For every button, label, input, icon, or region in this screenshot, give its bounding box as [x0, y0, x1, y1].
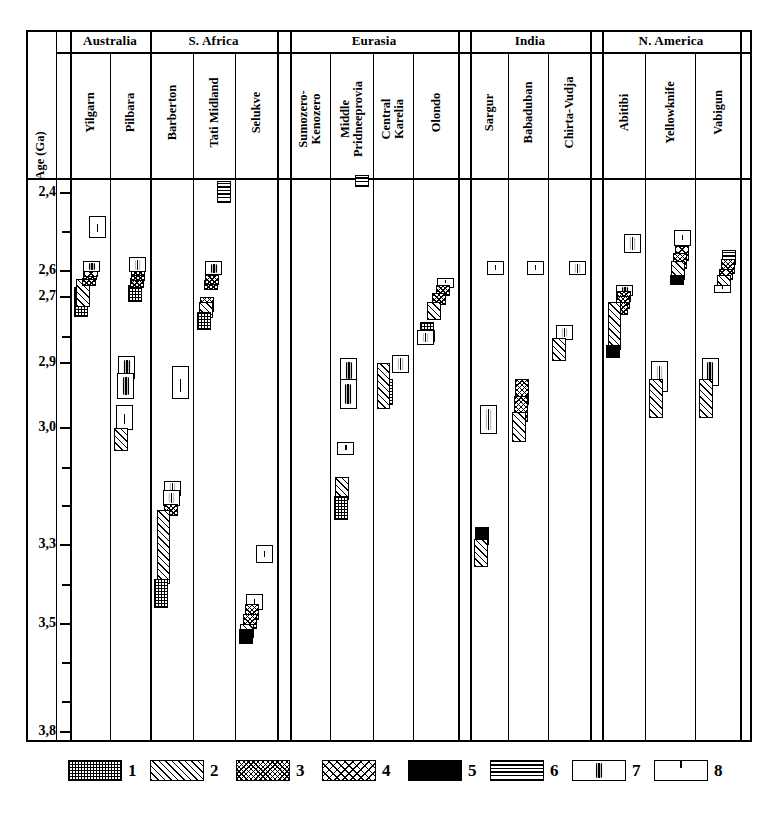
- data-block: [256, 545, 273, 563]
- y-axis-tick-minor: [62, 701, 71, 703]
- y-axis-tick-minor: [62, 662, 71, 664]
- region-header-separator: [56, 52, 752, 54]
- column-divider: [150, 30, 152, 742]
- column-header-babaduban: Babaduban: [522, 53, 535, 173]
- legend-item-5: 5: [408, 760, 488, 784]
- column-header-pilbara: Pilbara: [124, 53, 137, 173]
- y-axis-tick-minor: [62, 231, 71, 233]
- y-axis-tick-major: [60, 296, 71, 298]
- data-block: [480, 405, 497, 434]
- legend-swatch-horizontal-lines: [490, 760, 544, 781]
- y-axis-tick-major: [60, 623, 71, 625]
- legend-label: 6: [550, 761, 559, 781]
- y-axis-tick-minor: [62, 336, 71, 338]
- data-block: [172, 366, 189, 399]
- column-divider: [590, 30, 592, 742]
- data-block: [114, 428, 128, 451]
- legend-label: 1: [128, 761, 137, 781]
- column-header-chirta-vudja: Chirta-Vudja: [563, 53, 576, 173]
- y-axis-tick-label: 2,7: [16, 289, 56, 303]
- column-header-abitibi: Abitibi: [617, 53, 630, 173]
- data-block: [714, 285, 731, 293]
- data-block: [670, 275, 684, 285]
- column-divider: [56, 30, 57, 742]
- column-header-tati-midland: Tati Midland: [208, 53, 221, 173]
- data-block: [116, 405, 133, 430]
- data-block: [569, 261, 586, 275]
- data-block: [157, 510, 170, 585]
- data-block: [474, 539, 488, 567]
- column-header-olondo: Olondo: [429, 53, 442, 173]
- y-axis-tick-label: 2,6: [16, 263, 56, 277]
- column-divider: [277, 30, 279, 742]
- data-block: [699, 379, 713, 418]
- data-block: [129, 257, 146, 272]
- column-divider: [695, 52, 696, 742]
- column-divider: [193, 52, 194, 742]
- data-block: [427, 302, 441, 320]
- y-axis-tick-label: 3,0: [16, 420, 56, 434]
- y-axis-tick-minor: [62, 584, 71, 586]
- column-divider: [235, 52, 236, 742]
- legend-item-7: 7: [572, 760, 652, 784]
- y-axis-tick-label: 2,9: [16, 355, 56, 369]
- data-block: [89, 216, 106, 237]
- legend-swatch-box-small-dash: [654, 760, 708, 781]
- legend-label: 7: [632, 761, 641, 781]
- column-header-yilgarn: Yilgarn: [84, 53, 97, 173]
- data-block: [487, 261, 504, 275]
- y-axis-tick-major: [60, 544, 71, 546]
- column-divider: [413, 52, 414, 742]
- legend-label: 2: [210, 761, 219, 781]
- region-header-n-america: N. America: [602, 33, 740, 48]
- column-divider: [645, 52, 646, 742]
- data-block: [417, 330, 434, 345]
- data-block: [334, 496, 348, 519]
- data-block: [340, 379, 357, 408]
- legend-label: 8: [714, 761, 723, 781]
- legend-swatch-sparse-speckle: [322, 760, 376, 781]
- column-divider: [508, 52, 509, 742]
- data-block: [205, 261, 222, 275]
- y-axis-tick-label: 3,8: [16, 724, 56, 738]
- data-block: [197, 312, 211, 330]
- data-block: [527, 261, 544, 275]
- column-divider: [470, 30, 472, 742]
- y-axis-tick-label: 3,5: [16, 616, 56, 630]
- legend: 12345678: [0, 752, 765, 800]
- data-block: [608, 302, 621, 350]
- legend-item-3: 3: [236, 760, 316, 784]
- region-header-s-africa: S. Africa: [150, 33, 277, 48]
- column-divider: [458, 30, 460, 742]
- y-axis-tick-label: 2,4: [16, 185, 56, 199]
- data-block: [83, 261, 100, 272]
- legend-label: 4: [382, 761, 391, 781]
- data-block: [154, 579, 168, 609]
- y-axis-tick-minor: [62, 467, 71, 469]
- column-header-vabigun: Vabigun: [711, 53, 724, 173]
- data-block: [552, 338, 566, 361]
- data-block: [392, 355, 409, 373]
- age-chart: AustraliaS. AfricaEurasiaIndiaN. America…: [0, 0, 765, 816]
- column-divider: [290, 30, 292, 742]
- column-divider: [330, 52, 331, 742]
- legend-swatch-checker-grid: [68, 760, 122, 781]
- column-divider: [548, 52, 549, 742]
- column-header-central-karelia: Central Karelia: [380, 59, 406, 179]
- data-block: [377, 363, 390, 409]
- y-axis-tick-minor: [62, 505, 71, 507]
- column-header-yellowknife: Yellowknife: [664, 53, 677, 173]
- column-header-sumozero-kenozero: Sumozero- Kenozero: [297, 59, 323, 179]
- legend-label: 5: [468, 761, 477, 781]
- column-divider: [373, 52, 374, 742]
- legend-item-2: 2: [150, 760, 230, 784]
- column-divider: [70, 30, 72, 742]
- column-header-sargur: Sargur: [483, 53, 496, 173]
- column-header-selukve: Selukve: [250, 53, 263, 173]
- legend-item-6: 6: [490, 760, 570, 784]
- data-block: [624, 234, 641, 254]
- column-header-barberton: Barberton: [165, 53, 178, 173]
- legend-swatch-diagonal-hatch: [150, 760, 204, 781]
- data-block: [217, 181, 231, 202]
- data-block: [649, 379, 663, 418]
